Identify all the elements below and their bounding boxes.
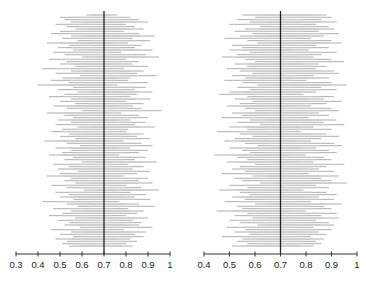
x-tick-label: 0.8	[299, 259, 312, 270]
x-tick-label: 0.4	[197, 259, 210, 270]
x-tick-label: 0.9	[141, 259, 154, 270]
x-tick-label: 1	[354, 259, 359, 270]
x-tick-label: 0.6	[75, 259, 88, 270]
x-tick-label: 0.3	[9, 259, 22, 270]
x-tick-label: 1	[167, 259, 172, 270]
x-tick-label: 0.7	[274, 259, 287, 270]
x-tick-label: 0.5	[53, 259, 66, 270]
x-tick-label: 0.9	[325, 259, 338, 270]
x-tick-label: 0.8	[119, 259, 132, 270]
x-tick-label: 0.4	[31, 259, 44, 270]
right-interval-plot: 0.40.50.60.70.80.91	[197, 11, 359, 270]
x-tick-label: 0.7	[97, 259, 110, 270]
chart-canvas: 0.30.40.50.60.70.80.91 0.40.50.60.70.80.…	[0, 0, 366, 281]
left-interval-plot: 0.30.40.50.60.70.80.91	[9, 11, 172, 270]
x-tick-label: 0.6	[248, 259, 261, 270]
x-tick-label: 0.5	[223, 259, 236, 270]
